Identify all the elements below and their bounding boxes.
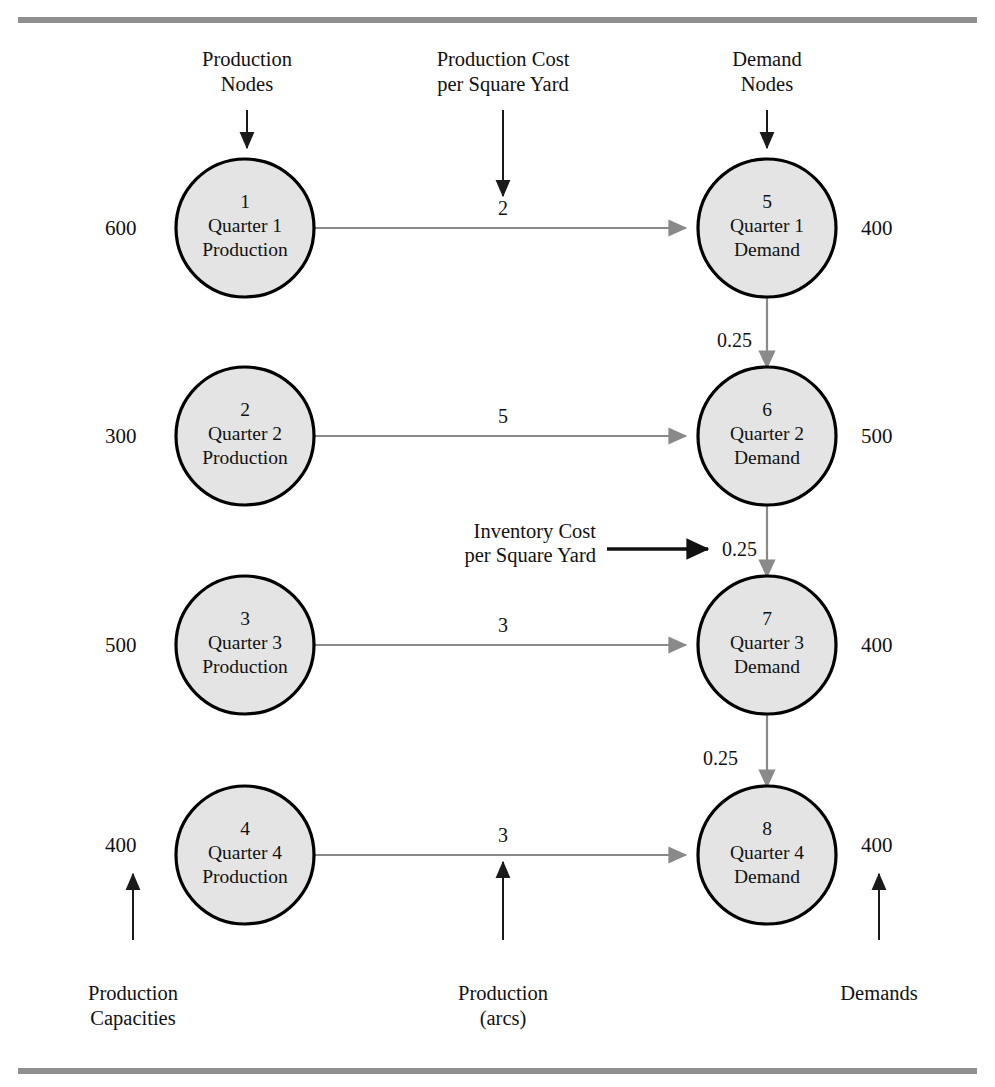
diagram-canvas: Production Nodes Production Cost per Squ… bbox=[0, 0, 995, 1087]
arc-6-7-cost: 0.25 bbox=[722, 538, 757, 560]
arc-4-8-cost: 3 bbox=[498, 824, 508, 846]
node-1-line3: Production bbox=[202, 239, 288, 260]
node-5[interactable]: 5 Quarter 1 Demand bbox=[698, 159, 836, 297]
node-1-line2: Quarter 1 bbox=[208, 215, 282, 236]
demand-node-5: 400 bbox=[861, 216, 893, 240]
callout-inventory-cost: Inventory Cost per Square Yard bbox=[464, 520, 708, 567]
callout-production-cost-line2: per Square Yard bbox=[437, 73, 569, 96]
callout-production-capacities-line1: Production bbox=[88, 982, 178, 1004]
node-6-line2: Quarter 2 bbox=[730, 423, 804, 444]
node-3-line2: Quarter 3 bbox=[208, 632, 282, 653]
node-2[interactable]: 2 Quarter 2 Production bbox=[176, 367, 314, 505]
node-7-id: 7 bbox=[762, 608, 772, 629]
node-4-line2: Quarter 4 bbox=[208, 842, 282, 863]
callout-inventory-cost-line2: per Square Yard bbox=[464, 544, 596, 567]
callout-demand-nodes-line1: Demand bbox=[732, 48, 801, 70]
node-7[interactable]: 7 Quarter 3 Demand bbox=[698, 576, 836, 714]
node-8-line3: Demand bbox=[734, 866, 800, 887]
node-5-line2: Quarter 1 bbox=[730, 215, 804, 236]
callout-production-arcs-line2: (arcs) bbox=[480, 1007, 527, 1030]
demand-node-8: 400 bbox=[861, 833, 893, 857]
top-rule bbox=[18, 17, 977, 23]
arc-3-7: 3 bbox=[312, 614, 686, 645]
node-2-line2: Quarter 2 bbox=[208, 423, 282, 444]
arc-3-7-cost: 3 bbox=[498, 614, 508, 636]
node-2-id: 2 bbox=[240, 399, 250, 420]
node-4-id: 4 bbox=[240, 818, 250, 839]
callout-production-cost: Production Cost per Square Yard bbox=[437, 48, 570, 196]
callout-demands-line1: Demands bbox=[840, 982, 917, 1004]
arc-4-8: 3 bbox=[312, 824, 686, 855]
callout-production-nodes-line2: Nodes bbox=[221, 73, 273, 95]
node-5-id: 5 bbox=[762, 191, 772, 212]
demand-node-7: 400 bbox=[861, 633, 893, 657]
arc-2-6-cost: 5 bbox=[498, 405, 508, 427]
callout-demand-nodes: Demand Nodes bbox=[732, 48, 801, 148]
callout-production-cost-line1: Production Cost bbox=[437, 48, 570, 70]
node-6[interactable]: 6 Quarter 2 Demand bbox=[698, 367, 836, 505]
callout-production-arcs: Production (arcs) bbox=[458, 862, 548, 1030]
capacity-node-2: 300 bbox=[105, 424, 137, 448]
node-2-line3: Production bbox=[202, 447, 288, 468]
capacity-node-3: 500 bbox=[105, 633, 137, 657]
node-6-line3: Demand bbox=[734, 447, 800, 468]
node-7-line2: Quarter 3 bbox=[730, 632, 804, 653]
node-4[interactable]: 4 Quarter 4 Production bbox=[176, 786, 314, 924]
callout-demand-nodes-line2: Nodes bbox=[741, 73, 793, 95]
arc-5-6: 0.25 bbox=[717, 296, 767, 368]
callout-production-nodes: Production Nodes bbox=[202, 48, 292, 148]
node-7-line3: Demand bbox=[734, 656, 800, 677]
arc-6-7: 0.25 bbox=[722, 505, 767, 577]
capacity-node-1: 600 bbox=[105, 216, 137, 240]
node-5-line3: Demand bbox=[734, 239, 800, 260]
network-flow-figure: Production Nodes Production Cost per Squ… bbox=[0, 0, 995, 1087]
callout-production-capacities: Production Capacities bbox=[88, 874, 178, 1030]
node-8[interactable]: 8 Quarter 4 Demand bbox=[698, 786, 836, 924]
callout-inventory-cost-line1: Inventory Cost bbox=[474, 520, 597, 543]
demand-node-6: 500 bbox=[861, 424, 893, 448]
node-3-line3: Production bbox=[202, 656, 288, 677]
node-3[interactable]: 3 Quarter 3 Production bbox=[176, 576, 314, 714]
callout-demands: Demands bbox=[840, 874, 917, 1004]
node-4-line3: Production bbox=[202, 866, 288, 887]
node-1-id: 1 bbox=[240, 191, 250, 212]
capacity-node-4: 400 bbox=[105, 833, 137, 857]
arc-1-5-cost: 2 bbox=[498, 197, 508, 219]
arc-1-5: 2 bbox=[312, 197, 686, 228]
node-6-id: 6 bbox=[762, 399, 772, 420]
callout-production-nodes-line1: Production bbox=[202, 48, 292, 70]
arc-7-8: 0.25 bbox=[703, 714, 767, 787]
callout-production-capacities-line2: Capacities bbox=[90, 1007, 175, 1030]
callout-production-arcs-line1: Production bbox=[458, 982, 548, 1004]
node-8-line2: Quarter 4 bbox=[730, 842, 804, 863]
arc-2-6: 5 bbox=[312, 405, 686, 436]
node-3-id: 3 bbox=[240, 608, 250, 629]
node-1[interactable]: 1 Quarter 1 Production bbox=[176, 159, 314, 297]
arc-5-6-cost: 0.25 bbox=[717, 329, 752, 351]
node-8-id: 8 bbox=[762, 818, 772, 839]
bottom-rule bbox=[18, 1068, 977, 1074]
arc-7-8-cost: 0.25 bbox=[703, 747, 738, 769]
